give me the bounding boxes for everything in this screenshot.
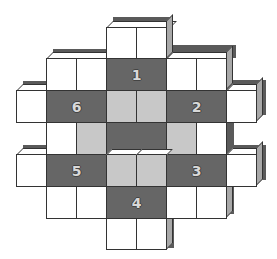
white-cell: [46, 58, 77, 91]
face-2: [166, 90, 227, 123]
light-cell: [76, 122, 107, 155]
white-cell: [136, 27, 167, 59]
light-cell: [136, 90, 167, 123]
white-cell: [106, 218, 137, 250]
white-cell: [196, 58, 227, 91]
face-3: [166, 154, 227, 187]
white-cell: [166, 186, 197, 219]
white-cell: [46, 122, 77, 155]
white-cell: [76, 58, 107, 91]
white-cell: [106, 27, 137, 59]
cube-side-face: [226, 45, 233, 90]
white-cell: [196, 186, 227, 219]
white-cell: [16, 90, 47, 123]
cube-side-face: [256, 77, 263, 122]
white-cell: [226, 154, 257, 187]
light-cell: [106, 90, 137, 123]
white-cell: [46, 186, 77, 219]
light-cell: [136, 154, 167, 187]
face-6: [46, 90, 107, 123]
white-cell: [166, 58, 197, 91]
white-cell: [226, 90, 257, 123]
white-cell: [136, 218, 167, 250]
cube-diagram: 1 2 3 4 5 6: [0, 0, 277, 259]
white-cell: [196, 122, 227, 155]
face-1: [106, 58, 167, 91]
cube-side-face: [256, 141, 263, 186]
white-cell: [76, 186, 107, 219]
cube-side-face: [166, 14, 173, 59]
face-5: [46, 154, 107, 187]
cube-top-face: [136, 149, 173, 155]
light-cell: [106, 154, 137, 187]
face-4: [106, 186, 167, 219]
white-cell: [16, 154, 47, 187]
